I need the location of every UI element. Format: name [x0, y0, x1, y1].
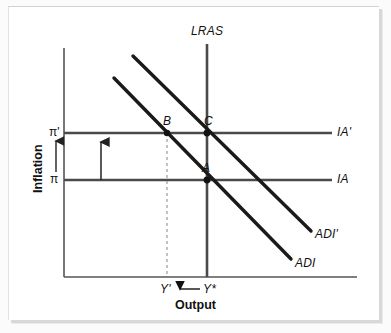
ia-label: IA — [337, 173, 349, 185]
point-c-label: C — [204, 115, 213, 127]
figure-root: LRAS IA' IA ADI' ADI A B C π' π Y' Y* Ou… — [0, 0, 391, 333]
point-b-marker — [164, 130, 170, 136]
point-a-marker — [204, 177, 211, 184]
adi-prime-curve — [133, 56, 311, 231]
point-b-label: B — [163, 115, 171, 127]
lras-label: LRAS — [191, 25, 223, 37]
x-axis-title: Output — [175, 299, 216, 312]
point-c-marker — [204, 130, 211, 137]
x-tick-y-prime: Y' — [160, 283, 171, 295]
adi-prime-label: ADI' — [315, 228, 338, 240]
diagram-canvas — [0, 0, 391, 333]
y-axis-title: Inflation — [31, 144, 45, 193]
adi-label: ADI — [295, 257, 316, 269]
y-tick-pi-prime: π' — [49, 126, 60, 138]
y-tick-pi: π — [50, 173, 58, 185]
ia-prime-label: IA' — [337, 126, 351, 138]
point-a-label: A — [202, 162, 210, 174]
x-tick-y-star: Y* — [203, 283, 216, 295]
